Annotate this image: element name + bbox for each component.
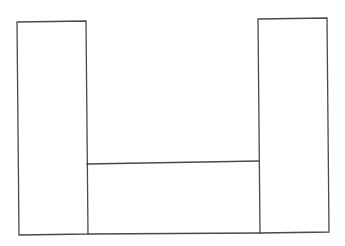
u-shape-diagram [0, 0, 345, 246]
right-pillar [258, 18, 329, 233]
middle-base-top-edge [87, 161, 259, 164]
middle-base-bottom-edge [88, 233, 260, 234]
left-pillar [17, 21, 88, 235]
